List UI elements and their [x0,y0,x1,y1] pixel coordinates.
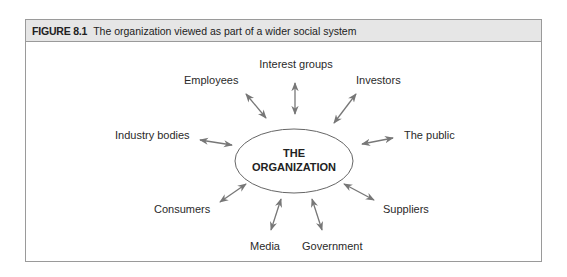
node-investors: Investors [356,74,401,86]
arrow-industry-bodies [200,140,232,145]
arrow-government [312,199,322,230]
node-consumers: Consumers [154,203,211,215]
node-employees: Employees [184,74,239,86]
arrow-investors [334,94,356,123]
arrow-consumers [220,184,246,202]
node-media: Media [250,240,281,252]
arrow-the-public [362,138,393,144]
node-government: Government [302,240,363,252]
arrow-media [271,199,281,230]
arrow-employees [246,94,266,118]
center-label-line2: ORGANIZATION [252,161,336,173]
node-industry-bodies: Industry bodies [115,129,190,141]
center-label-line1: THE [283,147,305,159]
arrow-suppliers [344,184,374,200]
node-interest-groups: Interest groups [259,58,333,70]
node-the-public: The public [404,129,455,141]
node-suppliers: Suppliers [383,203,429,215]
diagram: THE ORGANIZATION Interest groups Investo… [0,0,567,277]
